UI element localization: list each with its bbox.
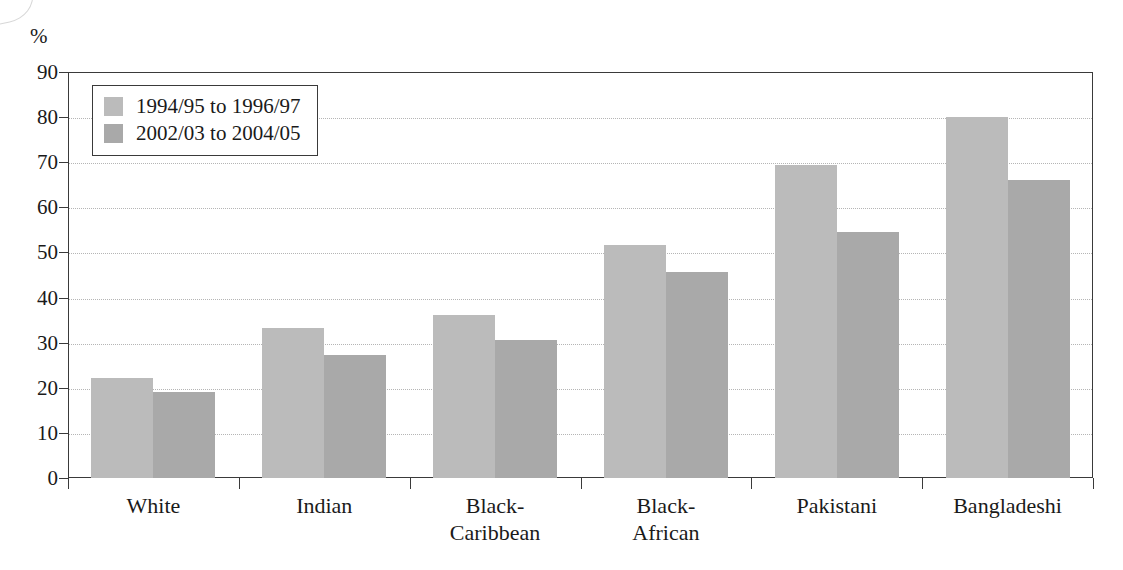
x-axis-category-label-line: Caribbean: [410, 519, 581, 546]
chart-legend: 1994/95 to 1996/97 2002/03 to 2004/05: [92, 85, 318, 156]
legend-item: 1994/95 to 1996/97: [104, 93, 301, 120]
bar: [495, 340, 557, 478]
y-axis-tick-mark: [59, 388, 68, 389]
x-axis-category-label-line: Black-: [581, 492, 752, 519]
bar: [324, 355, 386, 478]
bar-group: [946, 72, 1070, 478]
bar-group: [433, 72, 557, 478]
x-axis-category-label: Black-Caribbean: [410, 492, 581, 546]
bar: [604, 245, 666, 478]
y-axis-tick-mark: [59, 162, 68, 163]
x-axis-tick-mark: [68, 478, 69, 489]
x-axis-tick-mark: [751, 478, 752, 489]
y-axis-tick-mark: [59, 207, 68, 208]
x-axis-category-label-line: Black-: [410, 492, 581, 519]
y-axis-tick-mark: [59, 252, 68, 253]
x-axis-category-label-line: Bangladeshi: [922, 492, 1093, 519]
bar: [775, 165, 837, 478]
y-axis-tick-label: 70: [37, 152, 58, 173]
bar: [837, 232, 899, 478]
y-axis-tick-labels: 9080706050403020100: [0, 72, 68, 478]
bar: [153, 392, 215, 478]
x-axis-category-label-line: Pakistani: [751, 492, 922, 519]
bar: [946, 117, 1008, 478]
y-axis-tick-mark: [59, 117, 68, 118]
bar: [433, 315, 495, 478]
x-axis-category-label: Bangladeshi: [922, 492, 1093, 519]
bar: [1008, 180, 1070, 478]
y-axis-tick-label: 0: [48, 468, 59, 489]
y-axis-tick-label: 40: [37, 287, 58, 308]
y-axis-tick-label: 30: [37, 332, 58, 353]
y-axis-tick-label: 80: [37, 107, 58, 128]
x-axis-category-label-line: African: [581, 519, 752, 546]
y-axis-tick-label: 10: [37, 422, 58, 443]
bar: [91, 378, 153, 478]
legend-label-series1: 1994/95 to 1996/97: [136, 96, 301, 117]
y-axis-tick-label: 90: [37, 62, 58, 83]
y-axis-tick-mark: [59, 298, 68, 299]
y-axis-tick-label: 50: [37, 242, 58, 263]
bar: [666, 272, 728, 478]
legend-item: 2002/03 to 2004/05: [104, 120, 301, 147]
x-axis-tick-mark: [410, 478, 411, 489]
x-axis-category-label: Black-African: [581, 492, 752, 546]
bar: [262, 328, 324, 478]
x-axis-category-labels: WhiteIndianBlack-CaribbeanBlack-AfricanP…: [68, 492, 1093, 562]
x-axis-tick-mark: [1093, 478, 1094, 489]
x-axis-category-label: Pakistani: [751, 492, 922, 519]
y-axis-tick-mark: [59, 343, 68, 344]
y-axis-tick-mark: [59, 478, 68, 479]
legend-label-series2: 2002/03 to 2004/05: [136, 123, 301, 144]
x-axis-tick-mark: [922, 478, 923, 489]
y-axis-tick-label: 60: [37, 197, 58, 218]
x-axis-tick-mark: [581, 478, 582, 489]
x-axis-category-label: Indian: [239, 492, 410, 519]
x-axis-category-label-line: White: [68, 492, 239, 519]
y-axis-tick-mark: [59, 72, 68, 73]
bar-group: [604, 72, 728, 478]
bar-group: [775, 72, 899, 478]
y-axis-tick-label: 20: [37, 377, 58, 398]
x-axis-tick-mark: [239, 478, 240, 489]
x-axis-category-label: White: [68, 492, 239, 519]
x-axis-category-label-line: Indian: [239, 492, 410, 519]
y-axis-tick-mark: [59, 433, 68, 434]
y-axis-unit-label: %: [30, 26, 48, 47]
legend-swatch-series1: [104, 97, 123, 116]
legend-swatch-series2: [104, 124, 123, 143]
grouped-bar-chart: % 9080706050403020100 WhiteIndianBlack-C…: [0, 0, 1123, 570]
